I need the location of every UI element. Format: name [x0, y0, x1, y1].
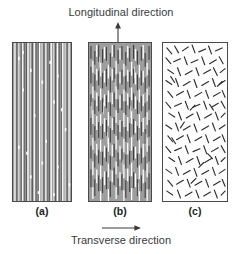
panel-continuous-aligned-fibers	[12, 42, 72, 202]
composite-fiber-orientation-figure: Longitudinal direction	[0, 0, 242, 254]
arrow-right-icon	[98, 221, 144, 235]
arrow-up-icon	[104, 22, 132, 42]
panel-caption-b: (b)	[88, 205, 152, 217]
transverse-direction-label: Transverse direction	[0, 234, 242, 246]
longitudinal-direction-label: Longitudinal direction	[0, 6, 242, 18]
panel-discontinuous-random-fibers	[162, 42, 228, 202]
panel-discontinuous-aligned-fibers	[88, 42, 152, 202]
panel-caption-a: (a)	[12, 205, 72, 217]
panel-caption-c: (c)	[162, 205, 228, 217]
